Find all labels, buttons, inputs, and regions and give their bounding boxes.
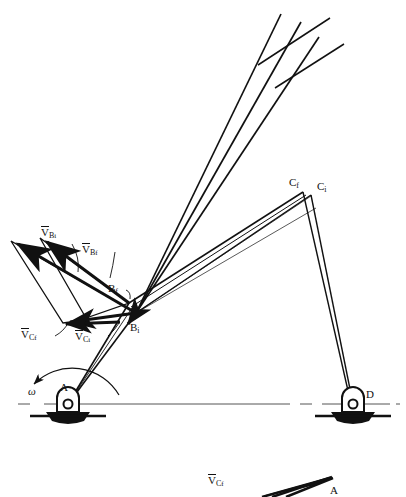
label-v-b-final: VBf: [82, 243, 98, 257]
linkage-velocity-diagram: ω A D Bf Bi Cf Ci VBi VBf VCf VCi VCf A: [0, 0, 406, 497]
label-b-initial: Bi: [130, 322, 140, 335]
vector-vcf-lower: [66, 322, 120, 324]
rocker-link: [303, 192, 353, 404]
label-v-c-initial: VCi: [75, 330, 90, 344]
label-pivot-a: A: [60, 382, 68, 393]
label-omega: ω: [28, 386, 36, 397]
label-bottom-v-c-final: VCf: [208, 474, 224, 488]
pivot-d: [315, 387, 391, 424]
label-v-b-initial: VBi: [41, 226, 56, 240]
coupler-link: [129, 192, 311, 313]
label-b-final: Bf: [108, 283, 118, 296]
label-v-c-final: VCf: [21, 328, 37, 342]
label-pivot-d: D: [366, 389, 374, 400]
bottom-figure-fragment: [262, 477, 333, 497]
coupler-extension-rays: [136, 14, 344, 313]
pivot-a: [30, 387, 106, 424]
label-c-final: Cf: [289, 177, 299, 190]
label-bottom-a: A: [330, 485, 338, 496]
label-c-initial: Ci: [317, 181, 327, 194]
